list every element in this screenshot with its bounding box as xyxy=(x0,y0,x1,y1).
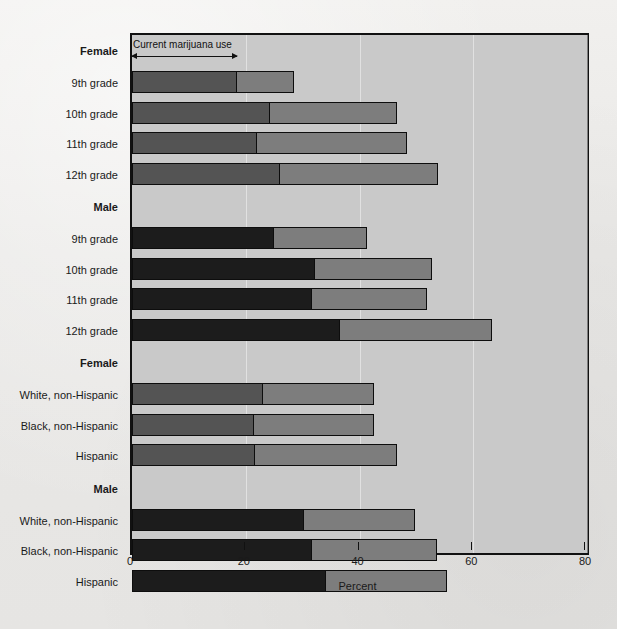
bar-segment-current-use xyxy=(132,258,315,280)
x-tick-label-20: 20 xyxy=(238,555,250,567)
category-label: 10th grade xyxy=(65,264,118,277)
bar-segment-current-use xyxy=(132,414,254,436)
category-label: 11th grade xyxy=(66,294,118,307)
bar-segment-current-use xyxy=(132,71,237,93)
arrow-right-head-icon xyxy=(232,53,238,59)
bar-segment-current-use xyxy=(132,227,274,249)
x-tick-0 xyxy=(130,542,131,550)
arrow-left-head-icon xyxy=(131,53,137,59)
x-tick-80 xyxy=(584,542,585,550)
x-axis-title: Percent xyxy=(130,580,585,592)
group-label-male-1: Male xyxy=(94,201,118,214)
bar-segment-current-use xyxy=(132,444,255,466)
chart-figure: Female9th grade10th grade11th grade12th … xyxy=(0,0,617,629)
bar-segment-current-use xyxy=(132,132,257,154)
category-label: Hispanic xyxy=(76,576,118,589)
x-tick-20 xyxy=(244,542,245,550)
gridline-60 xyxy=(473,35,474,553)
bar-segment-current-use xyxy=(132,383,263,405)
gridline-80 xyxy=(587,35,588,553)
annotation-label: Current marijuana use xyxy=(133,39,232,51)
category-label: 11th grade xyxy=(66,138,118,151)
annotation-current-marijuana-use: Current marijuana use xyxy=(132,39,244,67)
x-tick-60 xyxy=(471,542,472,550)
plot-area: Current marijuana use xyxy=(130,33,589,555)
category-label: 12th grade xyxy=(65,325,118,338)
group-label-male-3: Male xyxy=(94,483,118,496)
category-label: 9th grade xyxy=(72,233,118,246)
bar-segment-current-use xyxy=(132,319,340,341)
x-tick-label-40: 40 xyxy=(351,555,363,567)
category-label: White, non-Hispanic xyxy=(20,515,118,528)
category-label: 9th grade xyxy=(72,77,118,90)
category-label: Hispanic xyxy=(76,450,118,463)
category-label: White, non-Hispanic xyxy=(20,389,118,402)
category-label: Black, non-Hispanic xyxy=(21,420,118,433)
category-label: 10th grade xyxy=(65,108,118,121)
x-tick-40 xyxy=(358,542,359,550)
x-tick-label-60: 60 xyxy=(465,555,477,567)
group-label-female-0: Female xyxy=(80,45,118,58)
bar-segment-current-use xyxy=(132,288,312,310)
category-label: Black, non-Hispanic xyxy=(21,545,118,558)
category-label: 12th grade xyxy=(65,169,118,182)
bar-segment-current-use xyxy=(132,163,280,185)
bar-segment-current-use xyxy=(132,102,270,124)
bar-segment-current-use xyxy=(132,509,304,531)
x-tick-label-0: 0 xyxy=(127,555,133,567)
group-label-female-2: Female xyxy=(80,357,118,370)
x-tick-label-80: 80 xyxy=(579,555,591,567)
plot-inner: Current marijuana use xyxy=(132,35,587,553)
annotation-arrow xyxy=(132,56,237,57)
y-axis-labels: Female9th grade10th grade11th grade12th … xyxy=(0,33,124,551)
